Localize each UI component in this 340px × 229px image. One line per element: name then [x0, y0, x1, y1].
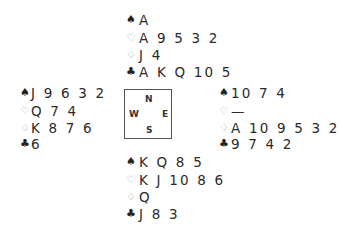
diamond-icon: ♢	[218, 120, 230, 136]
east-hearts: —	[231, 103, 247, 119]
south-spades: K Q 8 5	[139, 154, 204, 170]
spade-icon: ♠	[125, 154, 137, 170]
spade-icon: ♠	[218, 85, 230, 101]
north-spades: A	[139, 12, 150, 28]
west-hearts: Q 7 4	[31, 103, 78, 119]
heart-icon: ♡	[125, 30, 137, 46]
club-icon: ♣	[19, 136, 31, 152]
east-diamonds: A 10 9 5 3 2	[231, 120, 340, 136]
north-hearts: A 9 5 3 2	[139, 30, 220, 46]
heart-icon: ♡	[19, 103, 31, 119]
compass-box: N W E S	[124, 89, 172, 139]
west-diamonds: K 8 7 6	[31, 120, 94, 136]
west-spades: J 9 6 3 2	[31, 85, 106, 101]
diamond-icon: ♢	[125, 47, 137, 63]
compass-east: E	[162, 109, 168, 119]
spade-icon: ♠	[19, 85, 31, 101]
spade-icon: ♠	[125, 12, 137, 28]
heart-icon: ♡	[218, 103, 230, 119]
compass-south: S	[146, 125, 152, 135]
compass-north: N	[145, 94, 153, 104]
north-clubs: A K Q 10 5	[139, 64, 233, 80]
club-icon: ♣	[218, 136, 230, 152]
club-icon: ♣	[125, 64, 137, 80]
south-hearts: K J 10 8 6	[139, 172, 225, 188]
south-diamonds: Q	[139, 189, 152, 205]
north-diamonds: J 4	[139, 47, 162, 63]
compass-west: W	[129, 109, 139, 119]
east-clubs: 9 7 4 2	[231, 136, 294, 152]
club-icon: ♣	[125, 206, 137, 222]
diamond-icon: ♢	[19, 120, 31, 136]
diamond-icon: ♢	[125, 189, 137, 205]
west-clubs: 6	[31, 136, 42, 152]
heart-icon: ♡	[125, 172, 137, 188]
south-clubs: J 8 3	[139, 206, 180, 222]
east-spades: 10 7 4	[231, 85, 287, 101]
